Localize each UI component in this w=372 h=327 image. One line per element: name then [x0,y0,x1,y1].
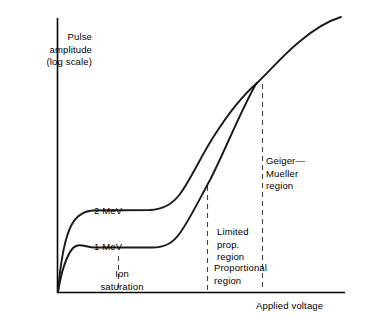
region-label-geiger-mueller: Geiger—Muellerregion [266,155,305,193]
y-axis-label-line3: (log scale) [47,56,92,67]
region-label-limited-line3: region [217,251,244,262]
y-axis-label: Pulseamplitude(log scale) [14,31,92,69]
y-axis-label-line1: Pulse [67,31,92,42]
curve-merged-geiger-mueller [256,17,341,84]
curve-label-1mev: 1 MeV [94,241,122,254]
region-label-ion-line2: saturation [100,281,143,294]
region-label-gm-line1: Geiger— [266,155,305,166]
region-label-gm-line2: Mueller [266,168,298,179]
region-label-prop-line2: region [214,275,241,286]
region-label-limited-line2: prop. [217,239,239,250]
gas-detector-regions-figure: Pulseamplitude(log scale) Applied voltag… [0,0,372,327]
curve-label-2mev: 2 MeV [94,205,122,218]
region-label-limited-line1: Limited [217,226,249,237]
x-axis-label: Applied voltage [256,300,323,313]
region-label-prop-line1: Proportional [214,262,267,273]
region-label-ion-line1: Ion [115,268,129,281]
region-label-limited-prop: Limitedprop.region [217,226,249,264]
y-axis-label-line2: amplitude [49,44,92,55]
region-label-proportional: Proportionalregion [214,262,267,287]
region-label-gm-line3: region [266,180,293,191]
